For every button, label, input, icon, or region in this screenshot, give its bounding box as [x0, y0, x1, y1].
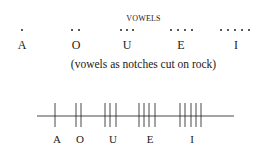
notch-group-i [180, 103, 201, 127]
notch-group-e [139, 103, 155, 127]
tally-label-i: I [182, 133, 202, 145]
notch-tally-diagram [0, 0, 263, 164]
tally-label-e: E [140, 133, 160, 145]
tally-label-u: U [103, 133, 123, 145]
notch-group-o [76, 103, 81, 127]
tally-label-o: O [70, 133, 90, 145]
notch-group-u [105, 103, 116, 127]
tally-label-a: A [47, 133, 67, 145]
